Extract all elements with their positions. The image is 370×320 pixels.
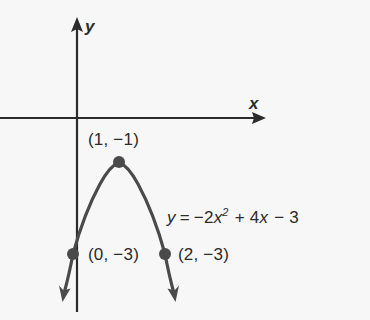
point-marker-vertex	[113, 156, 125, 168]
equation-term3-sign: −	[268, 208, 289, 227]
point-marker-y-intercept	[67, 248, 79, 260]
x-axis-arrowhead	[252, 112, 266, 124]
equation-term1-exponent: 2	[222, 206, 228, 218]
point-label-vertex: (1, −1)	[88, 131, 139, 148]
equation-term1-coef: 2	[204, 208, 214, 227]
parabola-figure: y x (1, −1) (0, −3) (2, −3) y=−2x2+4x−3	[0, 0, 370, 320]
x-axis-label: x	[249, 95, 258, 112]
equation-lhs: y	[167, 208, 176, 227]
point-label-symmetric: (2, −3)	[178, 246, 229, 263]
graph-canvas	[0, 0, 370, 320]
equation-term3-const: 3	[289, 208, 299, 227]
equation-term2-sign: +	[229, 208, 250, 227]
point-marker-symmetric	[159, 248, 171, 260]
parabola-curve	[65, 162, 174, 292]
equation-equals: =	[176, 208, 194, 227]
equation-term1-sign: −	[194, 208, 204, 227]
equation-label: y=−2x2+4x−3	[167, 209, 299, 226]
equation-term2-var: x	[259, 208, 268, 227]
y-axis-label: y	[85, 18, 94, 35]
point-label-y-intercept: (0, −3)	[88, 246, 139, 263]
